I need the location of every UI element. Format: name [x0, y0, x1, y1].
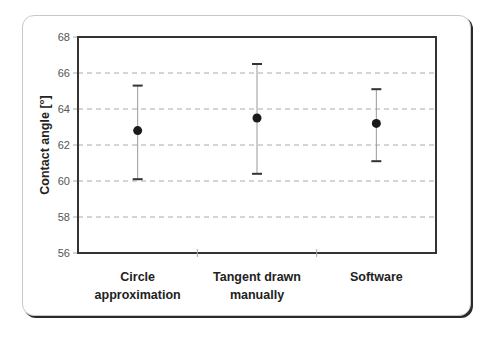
data-point-group [252, 64, 262, 174]
x-category-label: Tangent drawnmanually [213, 270, 301, 302]
data-point-marker [133, 126, 142, 135]
y-tick-label: 68 [58, 31, 70, 43]
data-points [133, 64, 382, 179]
contact-angle-chart: 56586062646668 CircleapproximationTangen… [0, 0, 490, 337]
data-point-marker [253, 114, 262, 123]
x-axis-category-labels: CircleapproximationTangent drawnmanually… [95, 270, 403, 302]
y-tick-label: 62 [58, 139, 70, 151]
data-point-group [133, 86, 143, 180]
y-tick-label: 58 [58, 211, 70, 223]
y-axis-title: Contact angle [°] [38, 95, 52, 194]
x-category-label: Software [350, 270, 403, 284]
data-point-group [371, 89, 381, 161]
y-tick-label: 60 [58, 175, 70, 187]
y-tick-label: 64 [58, 103, 70, 115]
y-tick-label: 66 [58, 67, 70, 79]
x-category-label: Circleapproximation [95, 270, 181, 302]
data-point-marker [372, 119, 381, 128]
y-axis-ticks: 56586062646668 [58, 31, 78, 259]
y-tick-label: 56 [58, 247, 70, 259]
